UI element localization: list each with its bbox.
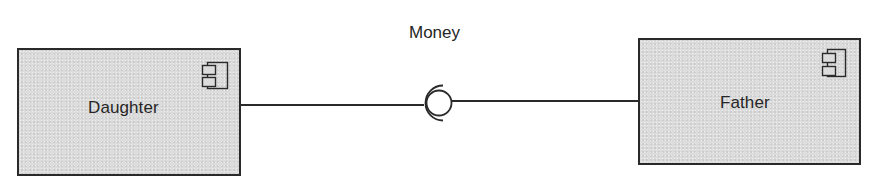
provided-interface-ball-icon — [427, 91, 452, 116]
daughter-component[interactable]: Daughter — [17, 48, 241, 176]
interface-label-money: Money — [409, 23, 460, 43]
father-component[interactable]: Father — [638, 38, 861, 165]
uml-component-icon — [821, 47, 851, 79]
father-label: Father — [720, 93, 770, 113]
daughter-label: Daughter — [88, 98, 159, 118]
component-diagram: Daughter Father Money — [0, 0, 872, 185]
uml-component-icon — [201, 60, 231, 92]
